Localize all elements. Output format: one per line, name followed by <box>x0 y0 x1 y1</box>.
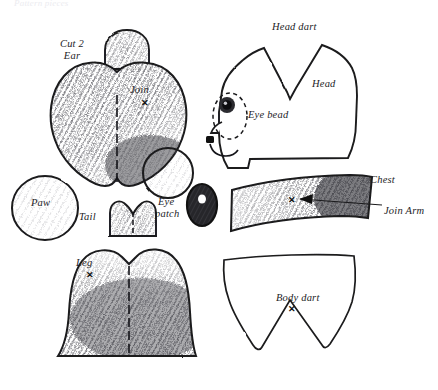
tail-label: Tail <box>79 211 96 223</box>
chest-x-mark: ✕ <box>288 196 296 205</box>
pattern-piece-leg <box>40 243 225 362</box>
ear-label: Ear <box>50 50 94 62</box>
pattern-sheet: Pattern pieces Cut 2 Ear Join ✕ Head dar… <box>0 0 438 390</box>
leg-x-mark: ✕ <box>86 271 94 280</box>
body-dart-x-mark: ✕ <box>288 305 296 314</box>
join-arm-label: Join Arm <box>384 205 424 217</box>
paw-label: Paw <box>31 197 50 209</box>
head-label: Head <box>312 78 336 90</box>
leg-label: Leg <box>76 257 92 269</box>
head-outline <box>219 45 357 168</box>
pattern-piece-head <box>206 45 357 168</box>
pattern-piece-chest <box>225 168 390 240</box>
head-dart-label: Head dart <box>272 21 317 33</box>
eye-patch-label-line2: patch <box>155 208 179 220</box>
join-x-mark: ✕ <box>141 99 149 108</box>
join-label: Join <box>130 84 149 96</box>
body-dart-label: Body dart <box>276 292 320 304</box>
eye-patch-hole <box>198 194 206 203</box>
eye-bead-label: Eye bead <box>248 109 288 121</box>
cut-off-caption: Pattern pieces <box>14 0 69 8</box>
eye-bead-inner <box>222 100 232 110</box>
pattern-piece-eye-patch <box>185 182 221 230</box>
ear-quantity-label: Cut 2 <box>50 38 94 50</box>
eye-bead-highlight <box>224 102 227 105</box>
nose-mark <box>206 136 214 143</box>
chest-label: Chest <box>370 174 395 186</box>
eye-patch-label-line1: Eye <box>158 196 174 208</box>
